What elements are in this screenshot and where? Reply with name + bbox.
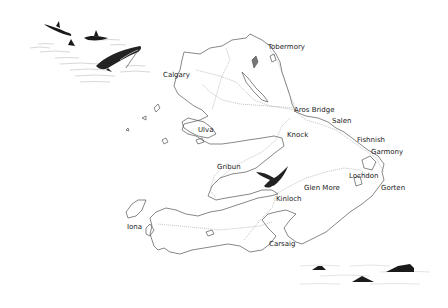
label-gribun: Gribun <box>217 163 241 171</box>
label-glen-more: Glen More <box>304 184 340 192</box>
label-salen: Salen <box>332 117 351 125</box>
label-ulva: Ulva <box>198 126 214 134</box>
label-carsaig: Carsaig <box>269 240 295 248</box>
label-gorten: Gorten <box>381 184 405 192</box>
label-knock: Knock <box>287 131 308 139</box>
label-calgary: Calgary <box>163 71 190 79</box>
label-aros-bridge: Aros Bridge <box>294 106 335 114</box>
label-lochdon: Lochdon <box>349 172 379 180</box>
label-kinloch: Kinloch <box>276 195 301 203</box>
label-garmony: Garmony <box>371 148 403 156</box>
label-iona: Iona <box>127 223 142 231</box>
dolphins-icon <box>30 21 150 82</box>
label-tobermory: Tobermory <box>268 43 305 51</box>
label-fishnish: Fishnish <box>357 136 385 144</box>
roads <box>158 48 384 240</box>
eagle-icon <box>256 166 288 188</box>
porpoises-icon <box>300 264 430 284</box>
island-coastline <box>126 34 384 254</box>
